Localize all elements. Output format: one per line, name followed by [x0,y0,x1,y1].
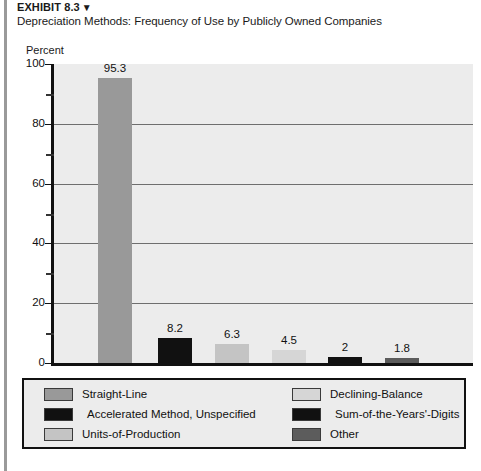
y-axis-tick-major [45,64,54,65]
chart-plot-area: 95.38.26.34.521.8 [51,64,473,366]
bar-value-label: 95.3 [88,63,142,75]
bar [98,78,132,363]
y-axis-tick-minor [46,94,54,96]
exhibit-subtitle: Depreciation Methods: Frequency of Use b… [17,15,382,27]
y-axis-tick-minor [46,154,54,156]
legend-swatch [292,428,321,441]
legend-label: Other [330,429,359,441]
legend-label: Accelerated Method, Unspecified [87,409,256,421]
bar-value-label: 1.8 [375,343,429,355]
legend-swatch [44,428,73,441]
y-axis-tick-minor [46,273,54,275]
y-axis-tick-minor [46,214,54,216]
y-axis-tick-labels: 100806040200 [0,64,45,363]
bar-value-label: 6.3 [205,329,259,341]
legend-swatch [292,408,321,421]
legend-item: Accelerated Method, Unspecified [44,408,256,421]
bar [158,338,192,363]
legend-item: Straight-Line [44,388,147,401]
bar [215,344,249,363]
bar [272,350,306,363]
legend-item: Units-of-Production [44,428,180,441]
triangle-down-icon: ▼ [82,2,92,13]
y-axis-title: Percent [26,44,64,56]
chart-legend: Straight-LineAccelerated Method, Unspeci… [22,378,466,449]
y-axis-tick-major [45,303,54,304]
y-axis-tick-major [45,184,54,185]
bar [385,358,419,363]
legend-swatch [44,388,73,401]
legend-swatch [292,388,321,401]
legend-label: Straight-Line [82,389,147,401]
legend-item: Sum-of-the-Years'-Digits [292,408,459,421]
y-axis-tick-label: 100 [5,58,45,70]
y-axis-tick-major [45,243,54,244]
exhibit-header: EXHIBIT 8.3▼ [17,1,92,13]
legend-swatch [44,408,73,421]
y-axis-tick-label: 20 [5,297,45,309]
bar [328,357,362,363]
y-axis-tick-major [45,363,54,364]
y-axis-tick-label: 80 [5,118,45,130]
y-axis-tick-label: 0 [5,357,45,369]
legend-item: Declining-Balance [292,388,423,401]
exhibit-label: EXHIBIT 8.3 [17,1,80,13]
legend-label: Declining-Balance [330,389,423,401]
y-axis-tick-major [45,124,54,125]
y-axis-tick-label: 40 [5,237,45,249]
legend-label: Units-of-Production [82,429,180,441]
y-axis-tick-minor [46,333,54,335]
y-axis-tick-label: 60 [5,178,45,190]
bar-value-label: 2 [318,342,372,354]
legend-item: Other [292,428,359,441]
legend-label: Sum-of-the-Years'-Digits [335,409,459,421]
bar-value-label: 4.5 [262,335,316,347]
bar-value-label: 8.2 [148,323,202,335]
